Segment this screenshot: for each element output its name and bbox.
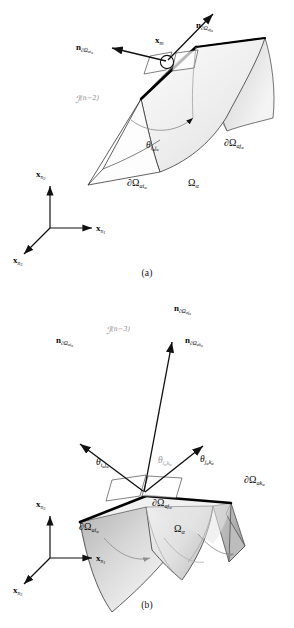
axis-label-x-n3: xn3 [13, 586, 22, 597]
normal-label-ai: n∂Ωaiα [76, 43, 93, 55]
axis-label-x-n2: xn2 [36, 500, 45, 511]
boundary-label-aj: ∂Ωajα [152, 498, 172, 511]
figure-panel-b: n∂Ωajα n∂Ωaiα n∂Ωakα ℐ(n−3) θiαjα θiαkα … [0, 300, 294, 628]
boundary-label-ak: ∂Ωakα [244, 475, 265, 488]
point-label-xm: xm [155, 36, 164, 46]
normal-arrow-aj [144, 342, 172, 492]
domain-label: Ωα [174, 524, 185, 535]
normal-label-aj: n∂Ωajα [174, 304, 191, 316]
angle-label-ij: θiαjα [146, 141, 159, 152]
panel-b-graphic [0, 300, 294, 628]
axis-label-x-n2: xn2 [36, 170, 45, 181]
boundary-label-ai: ∂Ωaiα [79, 522, 99, 535]
axis-label-x-n3: xn3 [13, 256, 22, 267]
panel-b-caption: (b) [0, 600, 294, 610]
angle-label-ik: θiαkα [158, 456, 172, 467]
normal-label-ai: n∂Ωaiα [56, 336, 73, 348]
axis-label-x-n1: xn1 [96, 224, 105, 235]
panel-a-caption: (a) [0, 268, 294, 278]
manifold-label-n2: ℐ(n−2) [75, 95, 99, 105]
coordinate-triad [24, 186, 92, 254]
boundary-label-aj: ∂Ωajα [224, 138, 244, 151]
figure-panel-a: n∂Ωajα n∂Ωaiα xm ℐ(n−2) θiαjα ∂Ωajα ∂Ωai… [0, 0, 294, 314]
domain-label: Ωα [188, 178, 199, 189]
normal-label-aj: n∂Ωajα [196, 21, 213, 33]
angle-label-ij: θiαjα [96, 458, 109, 469]
axis-label-x-n1: xn1 [96, 554, 105, 565]
boundary-label-ai: ∂Ωaiα [127, 178, 147, 191]
normal-label-ak: n∂Ωakα [185, 336, 203, 348]
manifold-label-n3: ℐ(n−3) [106, 326, 130, 336]
angle-label-jk: θjαkα [200, 455, 214, 466]
point-marker [160, 55, 173, 68]
panel-a-graphic [0, 0, 294, 314]
